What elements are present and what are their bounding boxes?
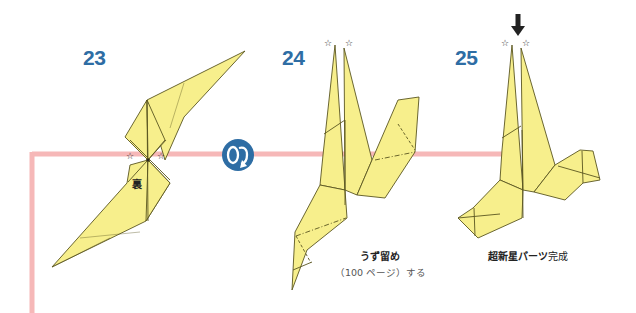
step-number-23: 23	[83, 46, 105, 70]
star-marker: ☆	[157, 151, 165, 161]
step-24-caption-sub: （100 ページ）する	[335, 265, 425, 279]
step-25-caption-tail: 完成	[548, 251, 568, 262]
back-side-label: 裏	[132, 176, 142, 191]
step-24-caption-main: うず留め	[335, 248, 425, 263]
step-number-24: 24	[282, 46, 304, 70]
diagram-stage: 23 24 25 ☆ ☆ ☆ ☆ ☆ ☆ 裏 うず留め （100 ページ）する …	[0, 0, 636, 313]
star-marker: ☆	[522, 38, 530, 48]
step-number-25: 25	[455, 46, 477, 70]
star-marker: ☆	[501, 38, 509, 48]
turn-over-icon	[222, 139, 254, 171]
star-marker: ☆	[345, 38, 353, 48]
star-marker: ☆	[126, 151, 134, 161]
step-25-caption: 超新星パーツ完成	[488, 248, 568, 263]
step-23-figure	[52, 51, 245, 267]
step-25-figure	[458, 45, 600, 238]
star-marker: ☆	[324, 38, 332, 48]
step-25-caption-main: 超新星パーツ	[488, 251, 548, 262]
arrow-down-icon	[511, 14, 525, 36]
step-24-caption: うず留め （100 ページ）する	[335, 248, 425, 279]
